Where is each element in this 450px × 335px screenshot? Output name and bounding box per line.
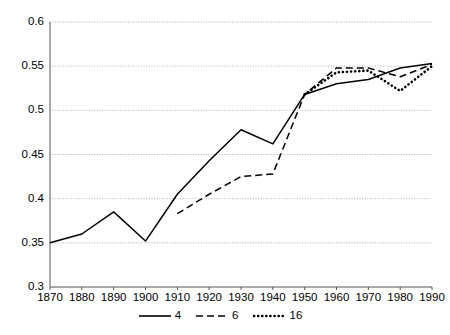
y-axis-tick-label: 0.35 (0, 236, 44, 248)
legend-item-16[interactable]: 16 (253, 310, 303, 322)
legend-label: 6 (232, 310, 238, 322)
series-line-16 (305, 66, 432, 94)
legend-swatch-dashed (195, 311, 229, 321)
legend-item-4[interactable]: 4 (138, 310, 181, 322)
legend-swatch-dotted (253, 311, 287, 321)
legend-label: 16 (290, 310, 303, 322)
x-axis-tick-label: 1990 (412, 291, 450, 303)
gridlines (50, 22, 432, 243)
series-lines (50, 64, 432, 243)
series-line-4 (50, 64, 432, 243)
y-axis-tick-label: 0.45 (0, 148, 44, 160)
y-axis-tick-label: 0.55 (0, 59, 44, 71)
legend-label: 4 (175, 310, 181, 322)
y-axis-tick-label: 0.5 (0, 103, 44, 115)
legend-item-6[interactable]: 6 (195, 310, 238, 322)
legend-swatch-solid (138, 311, 172, 321)
y-axis-tick-label: 0.6 (0, 15, 44, 27)
y-axis-tick-label: 0.4 (0, 192, 44, 204)
series-line-6 (177, 64, 432, 213)
legend: 4616 (0, 310, 440, 322)
axis-lines (50, 22, 432, 290)
